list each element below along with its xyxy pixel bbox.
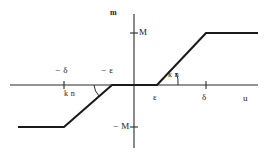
m-axis-label: m	[110, 9, 117, 17]
slope-label-left: k n	[64, 90, 75, 98]
figure-container: m u M − M − δ − ε ε δ k n k n	[0, 0, 268, 159]
angle-arc-left	[94, 85, 99, 96]
positive-saturation-label: M	[139, 28, 147, 37]
u-axis-label: u	[243, 94, 248, 103]
positive-epsilon-label: ε	[153, 93, 157, 102]
plot-canvas	[0, 0, 268, 159]
negative-epsilon-label: − ε	[101, 66, 113, 75]
negative-delta-label: − δ	[55, 66, 68, 75]
positive-delta-label: δ	[202, 93, 207, 102]
negative-saturation-label: − M	[113, 122, 130, 131]
slope-label-right: k n	[168, 71, 179, 79]
characteristic-curve	[18, 33, 258, 127]
